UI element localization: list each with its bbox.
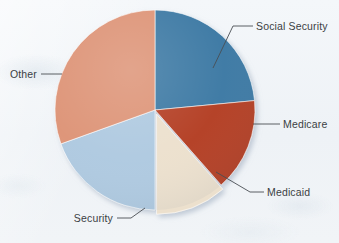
slice-label-other: Other bbox=[10, 68, 37, 80]
pie-chart-figure: Social Security Medicare Medicaid Securi… bbox=[0, 0, 339, 243]
pie-sheen-overlay bbox=[55, 10, 255, 210]
slice-label-medicaid: Medicaid bbox=[267, 186, 310, 198]
pie-chart-svg: Social Security Medicare Medicaid Securi… bbox=[0, 0, 339, 243]
leader-line-security bbox=[117, 208, 145, 218]
slice-label-security: Security bbox=[74, 212, 114, 224]
slice-label-medicare: Medicare bbox=[283, 118, 327, 130]
slice-label-social-security: Social Security bbox=[256, 20, 328, 32]
